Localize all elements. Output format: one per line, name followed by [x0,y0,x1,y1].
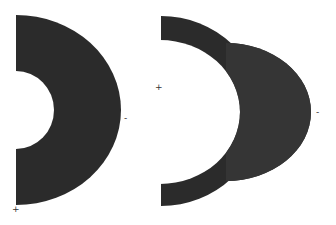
left-minus-marker: - [124,113,127,123]
right-plus-marker: + [155,82,163,92]
right-minus-marker: - [316,107,319,117]
left-half-ring [16,15,121,205]
diagram-canvas: + - + - [0,0,336,225]
left-plus-marker: + [12,204,20,214]
